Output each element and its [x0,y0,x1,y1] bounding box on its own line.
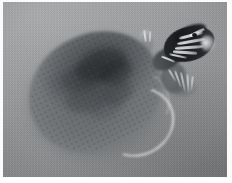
turtle-subject [3,2,227,177]
screenshot-root [0,0,232,183]
caption-strip [0,178,232,183]
eye [192,33,197,37]
photo-frame [0,0,232,183]
turtle-photograph [3,2,227,177]
